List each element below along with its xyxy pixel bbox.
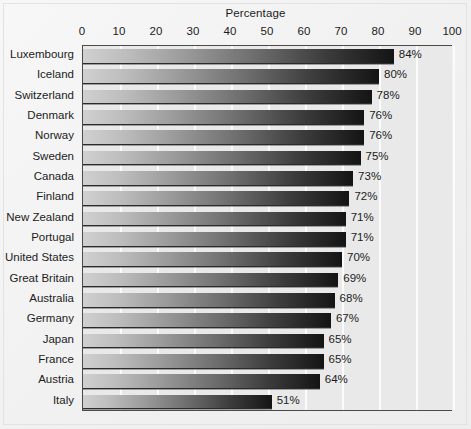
bar-value-label: 73%	[353, 170, 381, 182]
y-axis-category-label: Iceland	[0, 68, 78, 80]
bar-row: 78%	[83, 87, 452, 107]
bar	[83, 313, 331, 327]
plot-area: 84%80%78%76%76%75%73%72%71%71%70%69%68%6…	[82, 45, 452, 411]
bar-row: 71%	[83, 209, 452, 229]
bar-value-label: 75%	[361, 150, 389, 162]
x-axis-tick-label: 60	[298, 25, 311, 37]
x-axis-tick-label: 0	[79, 25, 85, 37]
bar	[83, 69, 379, 83]
bar	[83, 354, 324, 368]
bar	[83, 110, 364, 124]
bar-row: 73%	[83, 168, 452, 188]
bar-row: 84%	[83, 46, 452, 66]
bar	[83, 374, 320, 388]
bar-value-label: 68%	[335, 292, 363, 304]
bar	[83, 171, 353, 185]
y-axis-category-label: Canada	[0, 170, 78, 182]
bar-row: 68%	[83, 290, 452, 310]
gridline	[453, 46, 455, 410]
y-axis-category-label: France	[0, 353, 78, 365]
bar-value-label: 78%	[372, 89, 400, 101]
y-axis-category-label: Portugal	[0, 231, 78, 243]
bar	[83, 334, 324, 348]
bar-row: 71%	[83, 229, 452, 249]
bar-row: 64%	[83, 371, 452, 391]
bar-row: 69%	[83, 270, 452, 290]
bar-value-label: 67%	[331, 312, 359, 324]
x-axis-tick-label: 80	[372, 25, 385, 37]
bar-value-label: 72%	[349, 190, 377, 202]
bar	[83, 90, 372, 104]
x-axis-tick-label: 30	[187, 25, 200, 37]
bar-row: 72%	[83, 188, 452, 208]
x-axis-tick-label: 90	[409, 25, 422, 37]
bar-chart: Percentage 0102030405060708090100 Luxemb…	[0, 0, 471, 429]
x-axis-tick-label: 20	[150, 25, 163, 37]
y-axis-category-label: Austria	[0, 373, 78, 385]
bar-row: 75%	[83, 148, 452, 168]
bar-value-label: 84%	[394, 48, 422, 60]
y-axis-category-labels: LuxembourgIcelandSwitzerlandDenmarkNorwa…	[0, 45, 78, 411]
bar-value-label: 76%	[364, 129, 392, 141]
bar	[83, 151, 361, 165]
y-axis-category-label: Denmark	[0, 109, 78, 121]
bar-row: 76%	[83, 127, 452, 147]
y-axis-category-label: Norway	[0, 129, 78, 141]
y-axis-category-label: Germany	[0, 312, 78, 324]
bar	[83, 130, 364, 144]
y-axis-category-label: Sweden	[0, 150, 78, 162]
bar	[83, 212, 346, 226]
y-axis-category-label: United States	[0, 251, 78, 263]
bar-row: 65%	[83, 331, 452, 351]
bar-value-label: 76%	[364, 109, 392, 121]
bar-value-label: 70%	[342, 251, 370, 263]
y-axis-category-label: Australia	[0, 292, 78, 304]
bar-value-label: 65%	[324, 333, 352, 345]
bar	[83, 395, 272, 409]
y-axis-category-label: Switzerland	[0, 89, 78, 101]
x-axis-tick-label: 50	[261, 25, 274, 37]
bar-row: 67%	[83, 310, 452, 330]
bar-row: 51%	[83, 392, 452, 412]
bar	[83, 293, 335, 307]
bar-value-label: 71%	[346, 211, 374, 223]
x-axis-tick-labels: 0102030405060708090100	[82, 25, 452, 41]
y-axis-category-label: Finland	[0, 190, 78, 202]
bar-rows: 84%80%78%76%76%75%73%72%71%71%70%69%68%6…	[83, 46, 452, 410]
x-axis-tick-label: 10	[113, 25, 126, 37]
bar-value-label: 65%	[324, 353, 352, 365]
y-axis-category-label: Great Britain	[0, 272, 78, 284]
y-axis-category-label: Italy	[0, 394, 78, 406]
bar-row: 80%	[83, 66, 452, 86]
bar	[83, 273, 338, 287]
bar-row: 76%	[83, 107, 452, 127]
bar-value-label: 64%	[320, 373, 348, 385]
x-axis-tick-label: 40	[224, 25, 237, 37]
x-axis-tick-label: 100	[442, 25, 461, 37]
bar-value-label: 71%	[346, 231, 374, 243]
x-axis-tick-label: 70	[335, 25, 348, 37]
bar	[83, 191, 349, 205]
bar-value-label: 51%	[272, 394, 300, 406]
bar-row: 65%	[83, 351, 452, 371]
bar	[83, 252, 342, 266]
y-axis-category-label: Luxembourg	[0, 48, 78, 60]
bar-value-label: 69%	[338, 272, 366, 284]
bar	[83, 232, 346, 246]
y-axis-category-label: Japan	[0, 333, 78, 345]
y-axis-category-label: New Zealand	[0, 211, 78, 223]
chart-axis-title: Percentage	[0, 7, 471, 19]
bar-value-label: 80%	[379, 68, 407, 80]
bar-row: 70%	[83, 249, 452, 269]
bar	[83, 49, 394, 63]
